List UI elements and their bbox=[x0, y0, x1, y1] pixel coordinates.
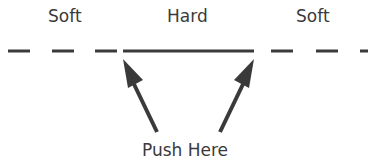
label-push-here: Push Here bbox=[142, 140, 228, 160]
hard-soft-diagram: Soft Hard Soft Push Here bbox=[0, 0, 368, 163]
arrow-left-icon bbox=[123, 59, 157, 132]
diagram-graphics bbox=[0, 0, 368, 163]
arrow-right-icon bbox=[220, 59, 254, 132]
